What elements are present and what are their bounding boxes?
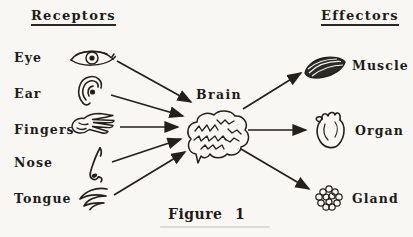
scan-smudge bbox=[160, 226, 270, 228]
arrow-nose-to-brain bbox=[112, 139, 181, 162]
arrow-ear-to-brain bbox=[111, 95, 183, 116]
arrow-brain-to-gland bbox=[241, 149, 309, 189]
arrow-layer bbox=[0, 0, 413, 237]
arrow-eye-to-brain bbox=[117, 61, 191, 102]
arrow-brain-to-muscle bbox=[243, 73, 301, 109]
figure-1-diagram: Receptors Effectors Eye Ear Fingers Nose… bbox=[0, 0, 413, 237]
figure-caption: Figure 1 bbox=[168, 206, 245, 222]
